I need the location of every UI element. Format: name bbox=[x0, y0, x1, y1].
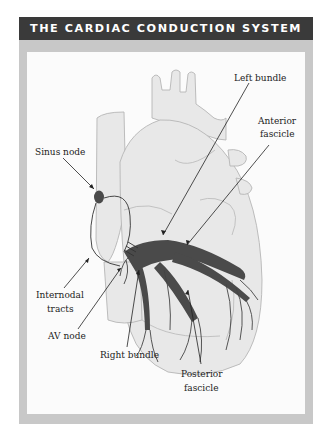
label-posterior-fascicle-line1: Posterior bbox=[181, 368, 223, 380]
label-sinus-node: Sinus node bbox=[35, 146, 85, 158]
label-anterior-fascicle-line2: fascicle bbox=[260, 128, 294, 140]
label-av-node: AV node bbox=[48, 330, 86, 342]
label-posterior-fascicle-line2: fascicle bbox=[184, 382, 218, 394]
label-left-bundle: Left bundle bbox=[234, 72, 286, 84]
label-internodal-tracts-line2: tracts bbox=[47, 303, 74, 315]
heart-diagram bbox=[0, 0, 325, 441]
label-internodal-tracts-line1: Internodal bbox=[36, 289, 84, 301]
label-right-bundle: Right bundle bbox=[100, 349, 159, 361]
heart-outline bbox=[96, 70, 262, 375]
sinus-node-shape bbox=[94, 191, 104, 204]
label-anterior-fascicle-line1: Anterior bbox=[258, 115, 296, 127]
